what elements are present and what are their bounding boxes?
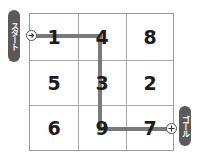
cell-r2c2[interactable]: 3: [78, 60, 126, 106]
start-label: スタート: [8, 10, 20, 62]
cell-value: 2: [143, 72, 156, 94]
cell-value: 1: [47, 26, 60, 48]
cell-r2c1[interactable]: 5: [30, 60, 78, 106]
goal-plus-icon: [166, 123, 177, 134]
cell-value: 4: [95, 26, 108, 48]
cell-r3c2[interactable]: 9: [78, 105, 126, 151]
cell-value: 9: [95, 117, 108, 139]
goal-label: ゴール: [179, 106, 191, 146]
cell-value: 3: [95, 72, 108, 94]
cell-r3c1[interactable]: 6: [30, 105, 78, 151]
cell-r1c1[interactable]: 1: [30, 14, 78, 60]
cell-r2c3[interactable]: 2: [126, 60, 174, 106]
cell-r1c2[interactable]: 4: [78, 14, 126, 60]
cell-value: 8: [143, 26, 156, 48]
cell-value: 5: [47, 72, 60, 94]
cell-value: 7: [143, 117, 156, 139]
cell-value: 6: [47, 117, 60, 139]
start-arrow-icon: [26, 30, 37, 41]
cell-r1c3[interactable]: 8: [126, 14, 174, 60]
